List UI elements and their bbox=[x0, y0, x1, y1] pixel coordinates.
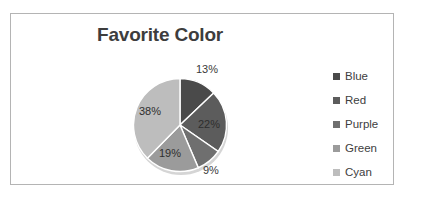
legend-label: Cyan bbox=[345, 166, 372, 178]
legend-item[interactable]: Red bbox=[333, 88, 395, 112]
legend-label: Red bbox=[345, 94, 366, 106]
legend-label: Green bbox=[345, 142, 377, 154]
legend-swatch-icon bbox=[333, 121, 340, 128]
legend-item[interactable]: Green bbox=[333, 136, 395, 160]
pie-label-purple: 9% bbox=[203, 164, 219, 176]
legend-item[interactable]: Purple bbox=[333, 112, 395, 136]
legend-item[interactable]: Blue bbox=[333, 64, 395, 88]
legend-swatch-icon bbox=[333, 169, 340, 176]
legend-item[interactable]: Cyan bbox=[333, 160, 395, 184]
chart-canvas: Favorite Color 13% 22% 9% 19% 38% BlueRe… bbox=[0, 0, 424, 205]
legend-swatch-icon bbox=[333, 97, 340, 104]
legend-swatch-icon bbox=[333, 145, 340, 152]
pie-label-red: 22% bbox=[198, 118, 220, 130]
chart-title: Favorite Color bbox=[10, 24, 310, 46]
legend-label: Purple bbox=[345, 118, 378, 130]
legend-label: Blue bbox=[345, 70, 368, 82]
legend-swatch-icon bbox=[333, 73, 340, 80]
pie-label-green: 19% bbox=[159, 147, 181, 159]
pie-label-cyan: 38% bbox=[139, 105, 161, 117]
chart-legend: BlueRedPurpleGreenCyan bbox=[333, 64, 395, 184]
pie-label-blue: 13% bbox=[196, 63, 218, 75]
